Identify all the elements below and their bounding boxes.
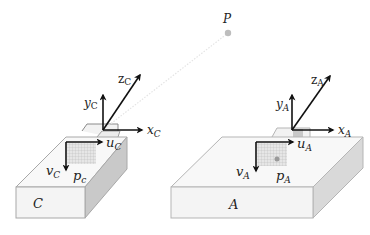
camera-box-label: C	[33, 196, 43, 211]
ar-y-label: yA	[275, 97, 290, 113]
projected-point-pa	[275, 157, 280, 162]
camera-x-label: xC	[147, 123, 161, 139]
camera-box-front	[16, 187, 85, 218]
point-p-marker	[225, 30, 231, 36]
ar-device-box-label: A	[228, 197, 238, 212]
diagram-canvas: C A P uC vC pc yC zC xC	[0, 0, 370, 235]
ar-device-box-front	[171, 187, 313, 218]
point-p-label: P	[222, 12, 232, 26]
camera-y-label: yC	[83, 96, 98, 111]
camera-z-label: zC	[118, 72, 131, 87]
ar-x-label: xA	[338, 123, 352, 139]
ar-z-label: zA	[311, 73, 324, 88]
